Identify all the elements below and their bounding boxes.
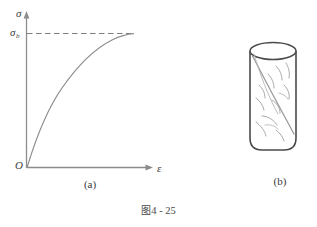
- subcaption-b: (b): [250, 175, 310, 187]
- cylinder-specimen-drawing: [232, 30, 312, 170]
- figure-caption-prefix: 图: [141, 205, 151, 216]
- panel-a-stress-strain-chart: σ σb O ε: [0, 0, 180, 200]
- figure-caption: 图4 - 25: [0, 202, 317, 217]
- origin-label: O: [15, 160, 23, 171]
- sigma-b-subscript: b: [16, 32, 20, 40]
- y-axis-tick-label-sigma-b: σb: [10, 27, 19, 38]
- subcaption-a: (a): [60, 178, 120, 190]
- y-axis-arrowhead: [24, 11, 30, 19]
- x-axis-arrowhead: [146, 165, 154, 171]
- figure-caption-number: 4 - 25: [151, 205, 176, 216]
- cylinder-top-ellipse: [250, 43, 296, 60]
- figure-container: σ σb O ε: [0, 0, 317, 227]
- stress-strain-plot: [0, 0, 180, 200]
- sigma-b-base: σ: [10, 26, 15, 38]
- stress-strain-curve: [27, 34, 133, 167]
- panel-b-fractured-cylinder: [232, 30, 312, 170]
- y-axis-label-sigma: σ: [16, 8, 21, 19]
- x-axis-label-epsilon: ε: [157, 163, 161, 174]
